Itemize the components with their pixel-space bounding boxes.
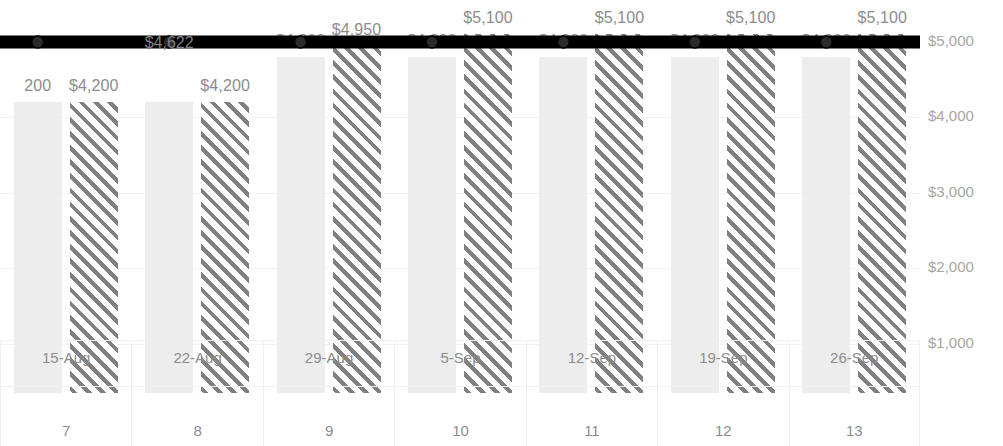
x-axis-week-band-11: 11 <box>526 386 657 446</box>
x-axis-label-29-Aug: 29-Aug <box>264 349 394 366</box>
x-axis-label-22-Aug: 22-Aug <box>132 349 262 366</box>
x-axis-band-15-Aug: 15-Aug <box>0 340 131 386</box>
x-axis-week-label-11: 11 <box>527 422 657 439</box>
x-axis-band-22-Aug: 22-Aug <box>131 340 262 386</box>
x-axis-week-band-8: 8 <box>131 386 262 446</box>
x-axis-week-band-9: 9 <box>263 386 394 446</box>
x-axis-band-19-Sep: 19-Sep <box>657 340 788 386</box>
x-axis-label-15-Aug: 15-Aug <box>1 349 131 366</box>
line-series-svg <box>0 0 920 393</box>
data-label-line-22-Aug: $4,622 <box>119 34 219 52</box>
y-axis: $1,000$2,000$3,000$4,000$5,000 <box>928 0 1003 393</box>
x-axis-label-5-Sep: 5-Sep <box>395 349 525 366</box>
x-axis-week-label-10: 10 <box>395 422 525 439</box>
y-axis-tick-2000: $2,000 <box>928 258 1003 275</box>
line-marker-15-Aug[interactable] <box>32 36 44 48</box>
line-marker-26-Sep[interactable] <box>820 36 832 48</box>
x-axis-week-band-10: 10 <box>394 386 525 446</box>
x-axis-band-26-Sep: 26-Sep <box>789 340 920 386</box>
x-axis-week-label-12: 12 <box>658 422 788 439</box>
x-axis-band-29-Aug: 29-Aug <box>263 340 394 386</box>
x-axis-week-band-12: 12 <box>657 386 788 446</box>
x-axis-label-26-Sep: 26-Sep <box>790 349 919 366</box>
line-marker-12-Sep[interactable] <box>557 36 569 48</box>
x-axis-week-band-7: 7 <box>0 386 131 446</box>
x-axis-band-12-Sep: 12-Sep <box>526 340 657 386</box>
x-axis-label-19-Sep: 19-Sep <box>658 349 788 366</box>
y-axis-tick-3000: $3,000 <box>928 183 1003 200</box>
plot-area: 200$4,200$4,200$4,800$4,950$4,800$5,100$… <box>0 0 920 393</box>
x-axis-week-band-13: 13 <box>789 386 920 446</box>
x-axis-week-label-9: 9 <box>264 422 394 439</box>
y-axis-tick-5000: $5,000 <box>928 32 1003 49</box>
x-axis-band-5-Sep: 5-Sep <box>394 340 525 386</box>
x-axis-week-label-8: 8 <box>132 422 262 439</box>
y-axis-tick-4000: $4,000 <box>928 107 1003 124</box>
x-axis-week-label-7: 7 <box>1 422 131 439</box>
x-axis-week-label-13: 13 <box>790 422 919 439</box>
line-marker-19-Sep[interactable] <box>689 36 701 48</box>
y-axis-tick-1000: $1,000 <box>928 334 1003 351</box>
x-axis: 15-Aug722-Aug829-Aug95-Sep1012-Sep1119-S… <box>0 340 920 446</box>
x-axis-label-12-Sep: 12-Sep <box>527 349 657 366</box>
chart-container: 200$4,200$4,200$4,800$4,950$4,800$5,100$… <box>0 0 1003 446</box>
line-marker-29-Aug[interactable] <box>295 36 307 48</box>
line-marker-5-Sep[interactable] <box>426 36 438 48</box>
